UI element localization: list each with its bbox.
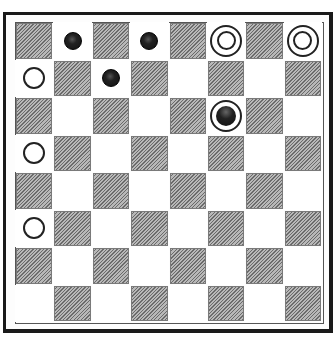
square-r3-c1[interactable]	[54, 136, 90, 172]
square-r7-c0[interactable]	[15, 285, 53, 323]
square-r1-c7[interactable]	[285, 61, 321, 97]
square-r2-c5[interactable]	[207, 97, 245, 135]
square-r3-c7[interactable]	[285, 136, 321, 172]
square-r6-c2[interactable]	[93, 248, 129, 284]
white-king-piece-icon[interactable]	[287, 25, 319, 57]
square-r0-c4[interactable]	[170, 23, 206, 59]
square-r1-c4[interactable]	[169, 60, 207, 98]
square-r3-c3[interactable]	[131, 136, 167, 172]
square-r0-c5[interactable]	[207, 22, 245, 60]
square-r0-c2[interactable]	[93, 23, 129, 59]
square-r2-c1[interactable]	[53, 97, 91, 135]
square-r2-c6[interactable]	[246, 98, 282, 134]
square-r6-c6[interactable]	[246, 248, 282, 284]
square-r4-c4[interactable]	[170, 173, 206, 209]
king-crown-ring-icon	[293, 31, 312, 50]
square-r7-c2[interactable]	[92, 285, 130, 323]
white-king-piece-icon[interactable]	[210, 25, 242, 57]
square-r3-c0[interactable]	[15, 135, 53, 173]
square-r0-c0[interactable]	[16, 23, 52, 59]
square-r7-c3[interactable]	[131, 286, 167, 322]
square-r2-c4[interactable]	[170, 98, 206, 134]
square-r5-c4[interactable]	[169, 210, 207, 248]
square-r5-c1[interactable]	[54, 211, 90, 247]
square-r6-c4[interactable]	[170, 248, 206, 284]
square-r5-c6[interactable]	[245, 210, 283, 248]
square-r2-c2[interactable]	[93, 98, 129, 134]
square-r5-c3[interactable]	[131, 211, 167, 247]
square-r6-c3[interactable]	[130, 247, 168, 285]
square-r6-c0[interactable]	[16, 248, 52, 284]
square-r2-c7[interactable]	[284, 97, 322, 135]
square-r3-c2[interactable]	[92, 135, 130, 173]
black-man-piece-icon[interactable]	[140, 32, 158, 50]
square-r4-c7[interactable]	[284, 172, 322, 210]
square-r7-c4[interactable]	[169, 285, 207, 323]
square-r1-c5[interactable]	[208, 61, 244, 97]
white-man-piece-icon[interactable]	[23, 67, 45, 89]
square-r5-c7[interactable]	[285, 211, 321, 247]
square-r6-c5[interactable]	[207, 247, 245, 285]
square-r5-c2[interactable]	[92, 210, 130, 248]
square-r4-c3[interactable]	[130, 172, 168, 210]
square-r7-c6[interactable]	[245, 285, 283, 323]
square-r0-c1[interactable]	[53, 22, 91, 60]
square-r2-c3[interactable]	[130, 97, 168, 135]
square-r5-c0[interactable]	[15, 210, 53, 248]
king-crown-ring-icon	[217, 31, 236, 50]
square-r4-c2[interactable]	[93, 173, 129, 209]
white-man-piece-icon[interactable]	[23, 142, 45, 164]
black-king-piece-icon[interactable]	[210, 100, 242, 132]
square-r6-c7[interactable]	[284, 247, 322, 285]
square-r4-c6[interactable]	[246, 173, 282, 209]
white-man-piece-icon[interactable]	[23, 217, 45, 239]
square-r2-c0[interactable]	[16, 98, 52, 134]
square-r3-c6[interactable]	[245, 135, 283, 173]
square-r1-c0[interactable]	[15, 60, 53, 98]
square-r4-c0[interactable]	[16, 173, 52, 209]
square-r1-c2[interactable]	[92, 60, 130, 98]
king-core-icon	[216, 106, 236, 126]
square-r0-c3[interactable]	[130, 22, 168, 60]
square-r3-c4[interactable]	[169, 135, 207, 173]
square-r0-c6[interactable]	[246, 23, 282, 59]
square-r3-c5[interactable]	[208, 136, 244, 172]
square-r0-c7[interactable]	[284, 22, 322, 60]
square-r4-c1[interactable]	[53, 172, 91, 210]
square-r7-c1[interactable]	[54, 286, 90, 322]
square-r7-c7[interactable]	[285, 286, 321, 322]
checkers-board[interactable]	[15, 22, 322, 322]
square-r4-c5[interactable]	[207, 172, 245, 210]
square-r7-c5[interactable]	[208, 286, 244, 322]
square-r1-c6[interactable]	[245, 60, 283, 98]
black-man-piece-icon[interactable]	[102, 69, 120, 87]
square-r6-c1[interactable]	[53, 247, 91, 285]
square-r1-c1[interactable]	[54, 61, 90, 97]
square-r1-c3[interactable]	[131, 61, 167, 97]
square-r5-c5[interactable]	[208, 211, 244, 247]
black-man-piece-icon[interactable]	[64, 32, 82, 50]
